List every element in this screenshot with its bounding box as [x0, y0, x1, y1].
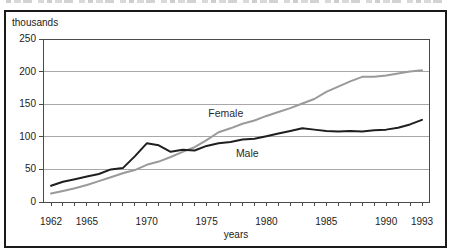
x-axis-tick-label: 1965: [76, 216, 98, 227]
x-axis-tick-label: 1970: [136, 216, 158, 227]
y-axis-tick-label: 150: [6, 98, 36, 109]
male-line-label: Male: [236, 147, 259, 159]
plot-border: [43, 39, 429, 202]
female-line-label: Female: [208, 107, 243, 119]
x-axis-title: years: [224, 229, 248, 240]
x-axis-tick-label: 1962: [40, 216, 62, 227]
x-axis-tick-label: 1993: [411, 216, 433, 227]
chart-figure: FemaleMale thousands years 0501001502002…: [0, 0, 453, 251]
y-axis-tick-label: 200: [6, 66, 36, 77]
plot-area: FemaleMale: [0, 0, 453, 251]
x-axis-tick-label: 1975: [195, 216, 217, 227]
y-axis-tick-label: 0: [6, 196, 36, 207]
y-axis-tick-label: 50: [6, 163, 36, 174]
y-axis-unit-label: thousands: [12, 17, 58, 28]
x-axis-tick-label: 1990: [375, 216, 397, 227]
y-axis-tick-label: 250: [6, 33, 36, 44]
x-axis-tick-label: 1985: [315, 216, 337, 227]
y-axis-tick-label: 100: [6, 131, 36, 142]
x-axis-tick-label: 1980: [255, 216, 277, 227]
